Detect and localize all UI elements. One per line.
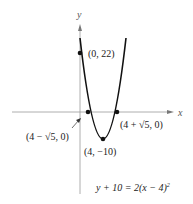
point-y-intercept bbox=[78, 51, 83, 56]
point-root-left bbox=[86, 110, 91, 115]
x-axis-label: x bbox=[177, 107, 183, 118]
label-y-intercept: (0, 22) bbox=[88, 48, 115, 60]
label-root-left: (4 − √5, 0) bbox=[26, 131, 69, 143]
y-axis-arrow-icon bbox=[78, 24, 82, 31]
equation-label: y + 10 = 2(x − 4)2 bbox=[95, 182, 170, 194]
y-axis-label: y bbox=[76, 9, 82, 20]
equation-exponent: 2 bbox=[167, 182, 170, 188]
x-axis-arrow-icon bbox=[167, 110, 174, 114]
point-root-right bbox=[115, 110, 120, 115]
label-vertex: (4, −10) bbox=[84, 146, 116, 158]
equation-main: y + 10 = 2(x − 4) bbox=[95, 182, 167, 194]
label-root-right: (4 + √5, 0) bbox=[120, 119, 163, 131]
point-vertex bbox=[101, 137, 106, 142]
parabola-graph: x y (0, 22) (4 + √5, 0) (4 − √5, 0) (4, … bbox=[0, 0, 193, 204]
